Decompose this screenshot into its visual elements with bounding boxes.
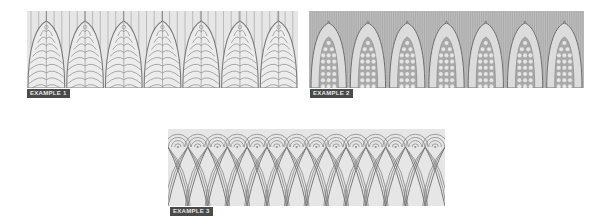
example-2-illustration	[309, 11, 584, 88]
example-3-pattern	[168, 129, 445, 206]
example-3-label: EXAMPLE 3	[170, 207, 213, 216]
example-3-illustration	[168, 129, 445, 206]
example-2-label: EXAMPLE 2	[310, 89, 353, 98]
example-1-illustration	[27, 11, 298, 88]
example-1-label: EXAMPLE 1	[27, 89, 70, 98]
example-2-pattern	[309, 11, 584, 88]
example-1-pattern	[27, 11, 298, 88]
